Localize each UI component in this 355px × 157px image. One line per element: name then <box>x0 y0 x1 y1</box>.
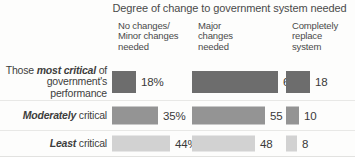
table-row: Least critical44%488 <box>0 130 355 157</box>
bar-with-value: 18 <box>286 71 327 93</box>
bar-moderately-critical-major-changes <box>192 107 265 125</box>
bar-with-value: 48 <box>192 136 272 152</box>
bar-moderately-critical-completely-replace <box>286 107 299 125</box>
bar-moderately-critical-no-minor-changes <box>112 107 158 125</box>
chart-rows: Those most critical of government's perf… <box>0 64 355 157</box>
chart-container: Degree of change to government system ne… <box>0 0 355 157</box>
bar-value-label: 18 <box>315 76 327 88</box>
bar-least-critical-no-minor-changes <box>112 136 170 152</box>
bar-most-critical-major-changes <box>192 71 278 93</box>
table-row: Moderately critical35%5510 <box>0 100 355 130</box>
bar-with-value: 18% <box>112 71 163 93</box>
bar-with-value: 55 <box>192 107 282 125</box>
bar-with-value: 65 <box>192 71 295 93</box>
row-plot-area: 18%6518 <box>112 64 355 100</box>
column-header-group: No changes/Minor changesneeded Majorchan… <box>0 21 355 65</box>
bar-most-critical-no-minor-changes <box>112 71 136 93</box>
row-label-moderately-critical: Moderately critical <box>0 110 112 121</box>
bar-value-label: 48 <box>260 138 272 150</box>
bar-value-label: 10 <box>304 110 316 122</box>
bar-with-value: 10 <box>286 107 316 125</box>
bar-with-value: 35% <box>112 107 185 125</box>
row-label-least-critical: Least critical <box>0 138 112 149</box>
bar-least-critical-completely-replace <box>286 136 297 152</box>
bar-value-label: 8 <box>302 138 308 150</box>
bar-with-value: 8 <box>286 136 308 152</box>
bar-with-value: 44% <box>112 136 197 152</box>
row-plot-area: 35%5510 <box>112 101 355 130</box>
column-header-completely-replace: Completelyreplacesystem <box>292 21 352 52</box>
chart-title: Degree of change to government system ne… <box>108 2 351 15</box>
column-header-major-changes: Majorchangesneeded <box>198 21 264 52</box>
row-label-emphasis: Least <box>50 137 76 149</box>
row-label-most-critical: Those most critical of government's perf… <box>0 65 112 99</box>
bar-most-critical-completely-replace <box>286 71 310 93</box>
bar-least-critical-major-changes <box>192 136 255 152</box>
row-plot-area: 44%488 <box>112 131 355 156</box>
bar-value-label: 35% <box>163 110 185 122</box>
bar-value-label: 18% <box>141 76 163 88</box>
row-label-emphasis: Moderately <box>23 109 76 121</box>
table-row: Those most critical of government's perf… <box>0 64 355 100</box>
column-header-no-minor-changes: No changes/Minor changesneeded <box>118 21 190 52</box>
row-label-emphasis: most critical <box>37 64 96 76</box>
bar-value-label: 55 <box>270 110 282 122</box>
